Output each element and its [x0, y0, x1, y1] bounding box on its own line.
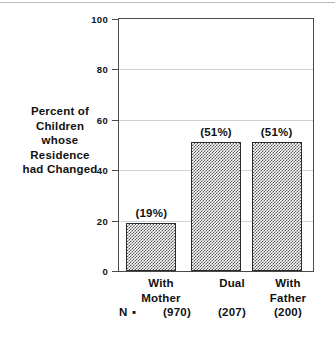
y-tick-label-20: 20 — [97, 215, 108, 226]
y-tick-20: 20 — [112, 221, 119, 222]
y-tick-label-40: 40 — [97, 165, 108, 176]
bar-with-mother[interactable]: (19%) — [126, 223, 176, 271]
x-category-line-1: With — [121, 276, 201, 291]
y-tick-60: 60 — [112, 120, 119, 121]
x-axis-category-with-father: With Father — [248, 276, 328, 305]
n-prefix-label: N ▪ — [119, 306, 136, 318]
y-tick-80: 80 — [112, 69, 119, 70]
x-category-line-2: Father — [248, 291, 328, 306]
bars-layer: (19%) (51%) (51%) — [119, 19, 313, 271]
y-axis-label-line-3: whose — [8, 133, 112, 148]
y-tick-label-100: 100 — [91, 14, 108, 25]
bar-dual[interactable]: (51%) — [191, 142, 241, 271]
y-axis-label-line-4: Residence — [8, 148, 112, 163]
chart-page: Percent of Children whose Residence had … — [0, 0, 335, 346]
x-category-line-2: Mother — [121, 291, 201, 306]
y-tick-40: 40 — [112, 170, 119, 171]
bar-value-label-dual: (51%) — [200, 126, 232, 138]
y-tick-label-0: 0 — [102, 266, 108, 277]
x-category-line-1: With — [248, 276, 328, 291]
scan-artifact-line — [0, 2, 335, 3]
plot-area: 020406080100 (19%) (51%) (51%) — [118, 18, 314, 272]
y-tick-0: 0 — [112, 271, 119, 272]
y-tick-label-80: 80 — [97, 64, 108, 75]
y-tick-label-60: 60 — [97, 114, 108, 125]
y-tick-100: 100 — [112, 19, 119, 20]
bar-value-label-with-mother: (19%) — [135, 207, 167, 219]
x-axis-category-with-mother: With Mother — [121, 276, 201, 305]
bar-with-father[interactable]: (51%) — [252, 142, 302, 271]
n-value-with-father: (200) — [248, 306, 328, 318]
bar-value-label-with-father: (51%) — [261, 126, 293, 138]
